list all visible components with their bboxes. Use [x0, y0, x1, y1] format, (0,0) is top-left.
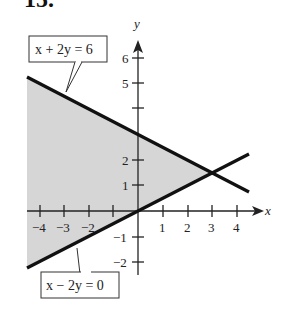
x-tick-labels: −4 −3 −2 1 2 3 4 — [32, 220, 240, 235]
x-tick-label: −4 — [32, 220, 46, 235]
y-tick-label: 5 — [122, 76, 129, 91]
x-tick-label: −2 — [81, 220, 95, 235]
y-tick-label: −1 — [113, 230, 127, 245]
x-tick-label: 1 — [159, 220, 166, 235]
x-tick-label: −3 — [56, 220, 70, 235]
eq2-label: x − 2y = 0 — [46, 278, 104, 293]
y-tick-label: 6 — [122, 51, 129, 66]
y-tick-label: 2 — [122, 153, 129, 168]
y-tick-label: 1 — [122, 178, 129, 193]
eq1-label: x + 2y = 6 — [35, 42, 93, 57]
y-tick-label: −2 — [113, 255, 127, 270]
x-tick-label: 4 — [233, 220, 240, 235]
x-tick-label: 3 — [208, 220, 215, 235]
y-axis-label: y — [132, 16, 140, 31]
x-tick-label: 2 — [184, 220, 191, 235]
x-axis-label: x — [264, 203, 271, 218]
chart: x y −4 −3 −2 1 2 3 4 6 5 2 1 −1 −2 x + 2… — [0, 0, 282, 312]
